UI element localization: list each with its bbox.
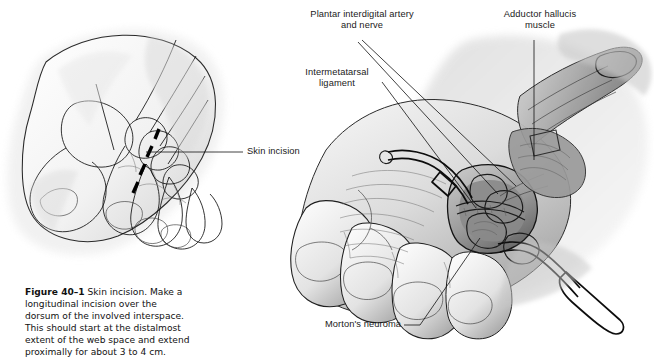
- leader-neuroma: [420, 238, 480, 325]
- retractor-lower: [498, 233, 623, 334]
- leader-intermetatarsal: [382, 82, 476, 208]
- adductor-tendon-sheets: [509, 47, 642, 197]
- figure-caption-text: Skin incision. Make a longitudinal incis…: [25, 287, 189, 357]
- figure-container: Plantar interdigital artery and nerve Ad…: [0, 0, 654, 361]
- skin-incision-dashes: [133, 129, 159, 193]
- label-intermetatarsal-ligament: Intermetatarsal ligament: [293, 67, 381, 90]
- figure-caption: Figure 40–1 Skin incision. Make a longit…: [25, 286, 191, 359]
- leader-plantar-nerve-a: [358, 42, 498, 194]
- annotation-leader-lines: [358, 40, 534, 325]
- label-mortons-neuroma: Morton's neuroma: [325, 319, 401, 330]
- label-plantar-interdigital-artery-and-nerve: Plantar interdigital artery and nerve: [296, 9, 428, 32]
- label-skin-incision: Skin incision: [247, 146, 300, 157]
- surgical-wound: [448, 165, 549, 254]
- leader-plantar-nerve-b: [362, 40, 516, 186]
- label-adductor-hallucis-muscle: Adductor hallucis muscle: [488, 9, 592, 32]
- retractor-upper: [380, 151, 472, 205]
- figure-number: Figure 40–1: [25, 287, 85, 297]
- left-foot-drawing: [7, 30, 224, 255]
